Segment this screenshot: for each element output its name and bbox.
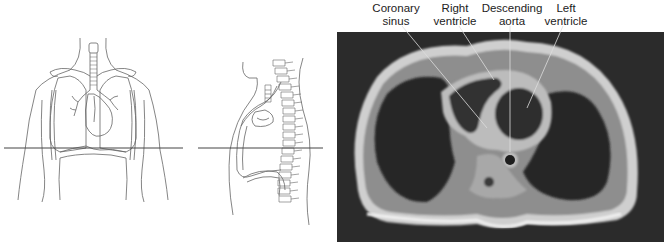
label-left-ventricle: Left ventricle bbox=[545, 2, 588, 27]
coronal-thorax-drawing bbox=[0, 30, 185, 220]
label-right-ventricle: Right ventricle bbox=[434, 2, 477, 27]
label-coronary-sinus: Coronary sinus bbox=[372, 2, 419, 27]
axial-mri-image bbox=[337, 32, 664, 242]
label-descending-aorta: Descending aorta bbox=[482, 2, 543, 27]
sagittal-thorax-drawing bbox=[185, 30, 330, 230]
